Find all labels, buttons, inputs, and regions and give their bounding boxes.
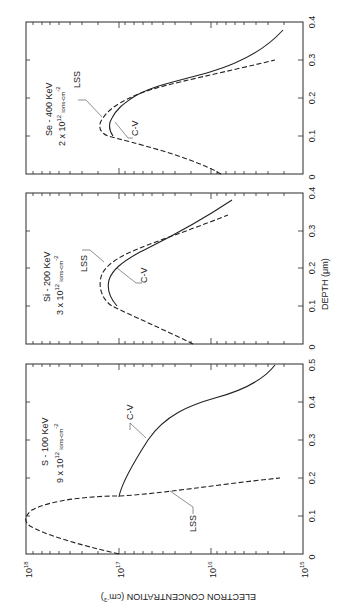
panel-s-lss-leader [170, 491, 193, 514]
panel-s-cv-curve [119, 365, 275, 497]
panel-s-lss-curve [26, 478, 280, 554]
panel-si-dose: 3 x 1012ions-cm-2 [53, 255, 65, 315]
svg-text:0.4: 0.4 [307, 187, 317, 200]
svg-text:0.2: 0.2 [307, 262, 317, 275]
panel-s: 0 0.1 0.2 0.3 0.4 0.5 S - 100 KeV 9 x 10… [23, 359, 317, 603]
svg-text:0: 0 [307, 554, 317, 559]
svg-text:0.2: 0.2 [307, 92, 317, 105]
depth-axis-label: DEPTH (μm) [320, 258, 330, 310]
panel-se-depth-ticks [26, 60, 303, 136]
panel-si-lss-label: LSS [79, 255, 89, 272]
svg-text:0.5: 0.5 [307, 359, 317, 372]
svg-text:0.1: 0.1 [307, 130, 317, 143]
panel-se-lss-leader [78, 100, 102, 117]
panel-s-dose: 9 x 1012ions-cm-2 [53, 423, 65, 483]
panel-se-cv-curve [109, 30, 283, 136]
panel-s-conc-ticks [33, 364, 284, 554]
panel-si-conc-ticks [33, 193, 284, 344]
panel-si-lss-curve [100, 215, 228, 344]
svg-text:9 x 1012ions-cm-2: 9 x 1012ions-cm-2 [53, 423, 65, 483]
panel-se-cv-label: C-V [130, 121, 140, 137]
svg-text:0.3: 0.3 [307, 54, 317, 67]
figure-canvas: 0 0.1 0.2 0.3 0.4 Se - 400 KeV 2 x 1012i… [0, 0, 342, 613]
panel-s-depth-ticks [26, 402, 303, 516]
panel-se-title: Se - 400 KeV [44, 82, 54, 136]
svg-text:0: 0 [307, 174, 317, 179]
panel-s-cv-label: C-V [125, 405, 135, 421]
panel-s-title: S - 100 KeV [40, 417, 50, 466]
panel-si-frame [26, 193, 303, 344]
panel-s-depth-labels: 0 0.1 0.2 0.3 0.4 0.5 [307, 359, 317, 560]
panel-s-frame [26, 364, 303, 554]
svg-text:0.1: 0.1 [307, 300, 317, 313]
svg-text:1016: 1016 [207, 561, 218, 578]
panel-si-cv-curve [108, 200, 232, 306]
svg-text:1017: 1017 [115, 561, 126, 578]
panel-se-conc-ticks [33, 22, 284, 174]
svg-text:0.4: 0.4 [307, 16, 317, 29]
panel-se: 0 0.1 0.2 0.3 0.4 Se - 400 KeV 2 x 1012i… [26, 16, 317, 180]
panel-se-lss-curve [100, 60, 275, 174]
svg-text:0.1: 0.1 [307, 510, 317, 523]
panel-se-lss-label: LSS [72, 71, 82, 88]
svg-text:1018: 1018 [23, 561, 34, 578]
conc-axis-label: ELECTRON CONCENTRATION (cm-3) [101, 592, 256, 603]
panel-si: 0 0.1 0.2 0.3 0.4 DEPTH (μm) Si - 200 Ke… [26, 187, 330, 350]
conc-axis-labels: 1018 1017 1016 1015 [23, 561, 310, 578]
panel-se-depth-labels: 0 0.1 0.2 0.3 0.4 [307, 16, 317, 180]
svg-text:0.4: 0.4 [307, 396, 317, 409]
panel-se-dose: 2 x 1012ions-cm-2 [55, 86, 67, 146]
panel-si-cv-label: C-V [139, 268, 149, 284]
panel-s-cv-leader [130, 423, 146, 438]
panel-s-lss-label: LSS [188, 515, 198, 532]
panel-si-depth-labels: 0 0.1 0.2 0.3 0.4 [307, 187, 317, 350]
panel-si-title: Si - 200 KeV [42, 251, 52, 302]
svg-text:0: 0 [307, 344, 317, 349]
svg-text:ELECTRON CONCENTRATION (cm-3): ELECTRON CONCENTRATION (cm-3) [101, 592, 256, 603]
svg-text:2 x 1012ions-cm-2: 2 x 1012ions-cm-2 [55, 86, 67, 146]
svg-text:0.3: 0.3 [307, 434, 317, 447]
panel-si-depth-ticks [26, 231, 303, 306]
svg-text:1015: 1015 [299, 561, 310, 578]
svg-text:3 x 1012ions-cm-2: 3 x 1012ions-cm-2 [53, 255, 65, 315]
svg-text:0.2: 0.2 [307, 472, 317, 485]
svg-text:0.3: 0.3 [307, 225, 317, 238]
